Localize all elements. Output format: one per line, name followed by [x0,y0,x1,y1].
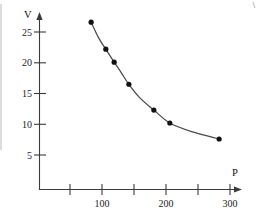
fitted-curve [91,22,219,139]
x-axis-arrow-icon [234,186,242,192]
data-point [89,20,94,25]
data-point [126,82,131,87]
data-point [112,60,117,65]
y-axis-arrow-icon [36,12,42,20]
data-point [167,120,172,125]
pressure-volume-plot: 25 20 15 10 5 100 200 300 V P [0,0,256,217]
x-axis-label: P [232,167,238,178]
y-tick-label-10: 10 [22,119,32,130]
x-tick-label-200: 200 [159,198,174,209]
y-axis-label: V [24,9,32,20]
data-point [103,47,108,52]
data-point [217,136,222,141]
y-tick-label-15: 15 [22,88,32,99]
data-point-group [89,20,222,142]
y-tick-label-25: 25 [22,27,32,38]
x-tick-label-100: 100 [95,198,110,209]
data-point [151,108,156,113]
y-tick-label-5: 5 [27,150,32,161]
chart-container: 25 20 15 10 5 100 200 300 V P [0,0,256,217]
x-tick-label-300: 300 [223,198,238,209]
y-tick-label-20: 20 [22,57,32,68]
page-edge-mark-right [253,2,255,8]
